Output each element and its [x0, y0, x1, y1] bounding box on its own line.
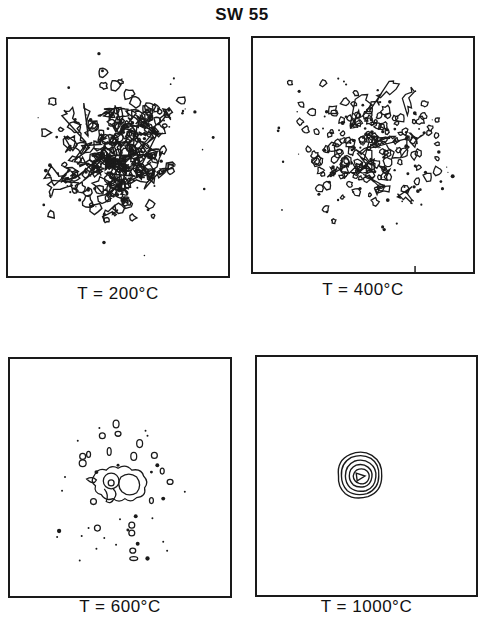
panel-caption: T = 600°C — [8, 597, 232, 617]
contour-panel-400c — [251, 36, 475, 274]
speckle-contour-plot — [8, 39, 228, 276]
contour-panel-600c — [8, 357, 232, 598]
contour-panel-200c — [6, 37, 230, 278]
speckle-contour-plot — [10, 359, 230, 596]
panel-caption: T = 1000°C — [255, 597, 478, 617]
contour-panel-1000c — [255, 355, 478, 597]
panel-caption: T = 400°C — [251, 280, 475, 300]
figure-title: SW 55 — [0, 5, 484, 25]
panel-caption: T = 200°C — [6, 284, 230, 304]
concentric-contour-plot — [257, 357, 476, 595]
speckle-contour-plot — [253, 38, 473, 272]
